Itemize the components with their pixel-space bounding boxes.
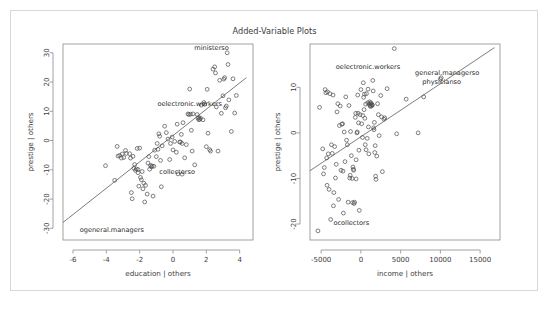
data-point — [146, 161, 150, 165]
added-variable-plots-canvas: Added-Variable Plots -6-4-2024education … — [0, 0, 549, 309]
data-point — [373, 144, 377, 148]
data-point — [365, 136, 369, 140]
data-point — [357, 208, 361, 212]
point-label: ministerso — [194, 44, 229, 52]
y-tick-label: -10 — [290, 173, 298, 184]
data-point — [140, 170, 144, 174]
y-axis-title: prestige | others — [273, 112, 282, 171]
x-tick-label: 2 — [204, 256, 208, 264]
data-point — [385, 87, 389, 91]
data-point — [362, 108, 366, 112]
data-point — [137, 184, 141, 188]
data-point — [377, 134, 381, 138]
y-tick-label: -30 — [43, 223, 51, 234]
data-point — [322, 172, 326, 176]
data-point — [366, 87, 370, 91]
data-point — [189, 128, 193, 132]
data-point — [404, 97, 408, 101]
point-label: ogeneral.managers — [80, 226, 145, 234]
data-point — [353, 115, 357, 119]
data-point — [157, 132, 161, 136]
figure-root: Added-Variable Plots -6-4-2024education … — [0, 0, 549, 309]
data-point — [343, 160, 347, 164]
data-point — [179, 132, 183, 136]
data-point — [372, 121, 376, 125]
data-point — [204, 145, 208, 149]
data-point — [354, 158, 358, 162]
data-point — [334, 162, 338, 166]
data-point — [190, 149, 194, 153]
y-tick-label: 10 — [290, 83, 298, 92]
data-point — [174, 150, 178, 154]
data-point — [376, 102, 380, 106]
data-point — [338, 104, 342, 108]
data-point — [130, 197, 134, 201]
y-tick-label: -20 — [43, 193, 51, 204]
data-point — [347, 104, 351, 108]
point-label: oelectronic.workers — [157, 100, 222, 108]
panel-income: -5000050001000015000income | others-20-1… — [273, 44, 500, 278]
data-point — [139, 178, 143, 182]
figure-title: Added-Variable Plots — [232, 26, 316, 36]
x-tick-label: -4 — [103, 256, 111, 264]
data-point — [233, 111, 237, 115]
data-point — [158, 134, 162, 138]
data-point — [371, 79, 375, 83]
x-tick-label: -5000 — [311, 256, 331, 264]
data-point — [337, 198, 341, 202]
data-point — [332, 191, 336, 195]
data-point — [104, 164, 108, 168]
data-point — [371, 89, 375, 93]
data-point — [216, 149, 220, 153]
data-point — [316, 229, 320, 233]
point-label: physicianso — [422, 78, 461, 86]
data-point — [379, 94, 383, 98]
data-point — [344, 95, 348, 99]
data-point — [205, 87, 209, 91]
data-point — [159, 185, 163, 189]
data-point — [155, 142, 159, 146]
data-point — [175, 122, 179, 126]
data-point — [229, 130, 233, 134]
y-tick-label: -10 — [43, 164, 51, 175]
data-point — [357, 148, 361, 152]
data-point — [145, 192, 149, 196]
x-tick-label: -2 — [136, 256, 143, 264]
data-point — [325, 183, 329, 187]
data-point — [380, 170, 384, 174]
point-label: collectorso — [159, 168, 195, 176]
data-point — [364, 148, 368, 152]
data-point — [318, 105, 322, 109]
data-point — [349, 130, 353, 134]
data-point — [354, 177, 358, 181]
data-point — [188, 87, 192, 91]
data-point — [141, 187, 145, 191]
data-point — [164, 131, 168, 135]
data-point — [322, 166, 326, 170]
data-point — [327, 188, 331, 192]
data-point — [341, 211, 345, 215]
data-point — [151, 194, 155, 198]
data-point — [395, 132, 399, 136]
data-point — [147, 155, 151, 159]
data-point — [168, 158, 172, 162]
x-tick-label: 0 — [359, 256, 363, 264]
point-label: ocollectors — [333, 219, 369, 227]
y-tick-label: -20 — [290, 218, 298, 229]
point-label: oelectronic.workers — [336, 63, 401, 71]
data-point — [173, 140, 177, 144]
data-point — [234, 94, 238, 98]
panel-education: -6-4-2024education | others-30-20-100102… — [26, 44, 253, 278]
data-point — [373, 151, 377, 155]
data-point — [333, 145, 337, 149]
data-point — [218, 78, 222, 82]
data-point — [227, 98, 231, 102]
plot-content — [63, 51, 246, 223]
x-axis-title: education | others — [125, 269, 191, 278]
data-point — [191, 112, 195, 116]
data-point — [143, 200, 147, 204]
data-point — [422, 95, 426, 99]
data-point — [329, 218, 333, 222]
data-point — [336, 102, 340, 106]
x-tick-label: 5000 — [392, 256, 410, 264]
